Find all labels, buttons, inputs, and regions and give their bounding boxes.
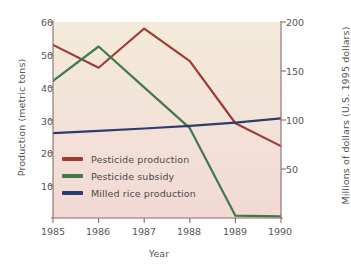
legend-item-pesticide-production: Pesticide production bbox=[62, 152, 196, 166]
legend-label: Milled rice production bbox=[91, 188, 196, 199]
legend-item-milled-rice-production: Milled rice production bbox=[62, 186, 196, 200]
legend-item-pesticide-subsidy: Pesticide subsidy bbox=[62, 169, 196, 183]
legend-label: Pesticide production bbox=[91, 154, 189, 165]
legend-swatch-icon bbox=[62, 157, 83, 161]
legend-label: Pesticide subsidy bbox=[91, 171, 174, 182]
y-axis-left-ticks bbox=[48, 22, 53, 185]
chart-legend: Pesticide production Pesticide subsidy M… bbox=[62, 152, 196, 200]
legend-swatch-icon bbox=[62, 191, 83, 195]
legend-swatch-icon bbox=[62, 174, 83, 178]
x-axis-ticks bbox=[53, 218, 281, 223]
y-axis-right-ticks bbox=[281, 22, 286, 169]
